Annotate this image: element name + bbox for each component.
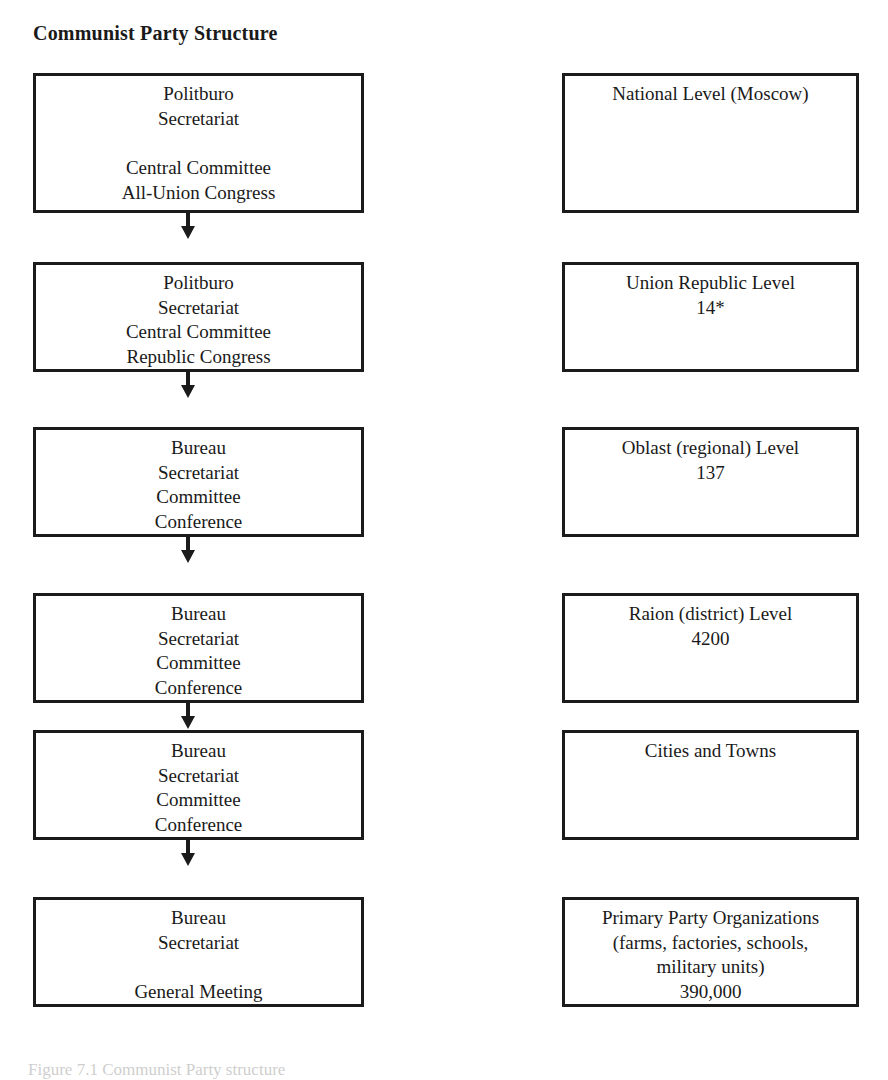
administrative-level-box-6: Primary Party Organizations(farms, facto… xyxy=(562,897,859,1007)
node-line: 390,000 xyxy=(565,980,856,1005)
node-line: 137 xyxy=(565,461,856,486)
node-line: Committee xyxy=(36,651,361,676)
node-line: Secretariat xyxy=(36,296,361,321)
down-arrow-icon xyxy=(177,703,199,729)
node-line: Bureau xyxy=(36,906,361,931)
node-line: Raion (district) Level xyxy=(565,602,856,627)
node-line: Politburo xyxy=(36,82,361,107)
node-line: military units) xyxy=(565,955,856,980)
node-line: Secretariat xyxy=(36,107,361,132)
node-line: National Level (Moscow) xyxy=(565,82,856,107)
node-line: Bureau xyxy=(36,436,361,461)
node-line: Union Republic Level xyxy=(565,271,856,296)
party-organ-box-1: PolitburoSecretariat Central CommitteeAl… xyxy=(33,73,364,213)
down-arrow-icon xyxy=(177,840,199,866)
figure-caption: Figure 7.1 Communist Party structure xyxy=(28,1060,868,1080)
node-line: Bureau xyxy=(36,739,361,764)
administrative-level-box-1: National Level (Moscow) xyxy=(562,73,859,213)
node-line: All-Union Congress xyxy=(36,181,361,206)
node-line: Primary Party Organizations xyxy=(565,906,856,931)
party-organ-box-2: PolitburoSecretariatCentral CommitteeRep… xyxy=(33,262,364,372)
node-line: Politburo xyxy=(36,271,361,296)
party-organ-box-6: BureauSecretariat General Meeting xyxy=(33,897,364,1007)
node-line: Secretariat xyxy=(36,627,361,652)
administrative-level-box-3: Oblast (regional) Level137 xyxy=(562,427,859,537)
node-line: Central Committee xyxy=(36,320,361,345)
node-line: Secretariat xyxy=(36,764,361,789)
party-organ-box-4: BureauSecretariatCommitteeConference xyxy=(33,593,364,703)
administrative-level-box-2: Union Republic Level14* xyxy=(562,262,859,372)
node-line: Conference xyxy=(36,676,361,701)
node-line: Conference xyxy=(36,510,361,535)
node-line: Bureau xyxy=(36,602,361,627)
node-line: General Meeting xyxy=(36,980,361,1005)
down-arrow-icon xyxy=(177,372,199,398)
down-arrow-icon xyxy=(177,537,199,563)
node-line: Central Committee xyxy=(36,156,361,181)
page-title: Communist Party Structure xyxy=(33,22,278,45)
party-organ-box-3: BureauSecretariatCommitteeConference xyxy=(33,427,364,537)
down-arrow-icon xyxy=(177,213,199,239)
node-line: Republic Congress xyxy=(36,345,361,370)
node-line: (farms, factories, schools, xyxy=(565,931,856,956)
node-line: 4200 xyxy=(565,627,856,652)
administrative-level-box-5: Cities and Towns xyxy=(562,730,859,840)
node-line: 14* xyxy=(565,296,856,321)
node-line: Oblast (regional) Level xyxy=(565,436,856,461)
node-line: Secretariat xyxy=(36,931,361,956)
party-organ-box-5: BureauSecretariatCommitteeConference xyxy=(33,730,364,840)
node-line: Committee xyxy=(36,788,361,813)
node-line: Secretariat xyxy=(36,461,361,486)
node-line: Committee xyxy=(36,485,361,510)
node-line: Cities and Towns xyxy=(565,739,856,764)
administrative-level-box-4: Raion (district) Level4200 xyxy=(562,593,859,703)
node-line: Conference xyxy=(36,813,361,838)
